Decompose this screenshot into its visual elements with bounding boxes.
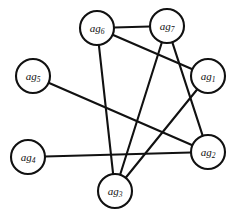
agent-graph-figure: ag1ag2ag3ag4ag5ag6ag7 — [0, 0, 233, 222]
edge-layer — [45, 26, 203, 177]
graph-node-ag2[interactable]: ag2 — [191, 135, 225, 169]
graph-node-ag3[interactable]: ag3 — [98, 174, 132, 208]
graph-node-ag7[interactable]: ag7 — [150, 9, 184, 43]
graph-edge-ag6-ag7 — [114, 26, 150, 27]
graph-node-ag6[interactable]: ag6 — [80, 11, 114, 45]
graph-node-ag1[interactable]: ag1 — [191, 59, 225, 93]
graph-canvas: ag1ag2ag3ag4ag5ag6ag7 — [0, 0, 233, 222]
graph-node-ag5[interactable]: ag5 — [16, 59, 50, 93]
graph-edge-ag5-ag2 — [49, 83, 193, 145]
graph-edge-ag4-ag2 — [45, 152, 191, 156]
graph-node-ag4[interactable]: ag4 — [11, 140, 45, 174]
graph-edge-ag1-ag3 — [126, 89, 198, 178]
